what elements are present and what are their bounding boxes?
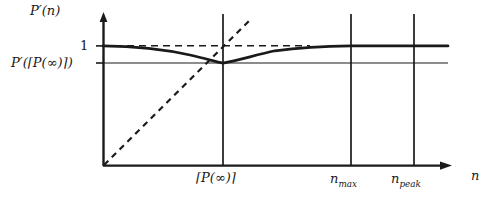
y-tick-label-min: P′(⌈P(∞)⌉)	[11, 55, 73, 70]
x-axis-arrowhead	[440, 161, 452, 169]
plot-canvas	[0, 0, 499, 201]
x-tick-label-nmax: nmax	[330, 171, 357, 189]
y-axis	[100, 12, 108, 166]
y-axis-arrowhead	[100, 12, 108, 22]
x-tick-nmax-subscript: max	[338, 179, 357, 189]
plot-figure: P′(n) 1 P′(⌈P(∞)⌉) ⌈P(∞)⌉ nmax npeak n	[0, 0, 499, 201]
y-axis-label: P′(n)	[30, 3, 60, 18]
y-tick-label-one: 1	[80, 38, 88, 53]
x-tick-npeak-subscript: peak	[399, 179, 421, 189]
diagonal-dashed	[104, 20, 250, 165]
x-tick-label-npeak: npeak	[391, 171, 421, 189]
x-axis-label: n	[471, 168, 479, 183]
x-tick-label-pinf: ⌈P(∞)⌉	[196, 170, 236, 185]
curve-p-prime	[103, 46, 448, 63]
x-axis	[103, 161, 452, 169]
